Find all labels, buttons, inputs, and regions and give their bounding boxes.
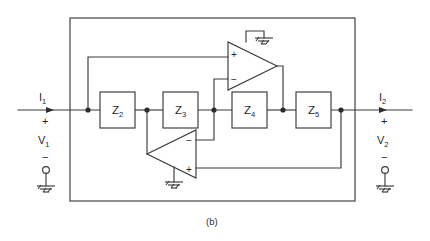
opamp-lower-minus-label: − [186, 135, 192, 146]
current-arrow-icon-i1 [46, 107, 54, 113]
junction-dot-icon-z4-z5 [280, 107, 285, 112]
voltage-label-v1: V1 [38, 134, 50, 149]
opamp-upper-plus-label: + [231, 49, 237, 60]
figure-root: Z2 Z3 Z4 Z5 + − − + [0, 0, 430, 241]
current-label-i1: I1 [39, 91, 46, 106]
figure-caption: (b) [206, 216, 218, 227]
ground-icon-right-port [376, 185, 394, 192]
current-label-i2: I2 [379, 91, 386, 106]
junction-dot-icon-z3-z4 [211, 107, 216, 112]
polarity-plus-right: + [381, 115, 387, 127]
opamp-upper-minus-label: − [231, 74, 237, 85]
junction-dot-icon-output [338, 107, 343, 112]
junction-dot-icon-z2-z3 [144, 107, 149, 112]
junction-dot-icon-input [85, 107, 90, 112]
wire-opamp-upper-output [277, 66, 283, 110]
polarity-plus-left: + [42, 115, 48, 127]
terminal-circle-icon-right [382, 167, 389, 174]
ground-icon-opamp-lower [165, 181, 183, 188]
terminal-circle-icon-left [43, 167, 50, 174]
ground-icon-left-port [37, 185, 55, 192]
opamp-lower-plus-label: + [186, 164, 192, 175]
wire-opamp-upper-minus-input [214, 79, 228, 110]
current-arrow-icon-i2 [379, 107, 387, 113]
circuit-diagram: Z2 Z3 Z4 Z5 + − − + [0, 0, 430, 241]
wire-opamp-upper-ground-stub [246, 31, 264, 42]
voltage-label-v2: V2 [377, 134, 389, 149]
wire-opamp-lower-minus-input [196, 110, 214, 140]
ground-icon-opamp-upper [255, 37, 273, 44]
polarity-minus-left: − [42, 151, 48, 163]
polarity-minus-right: − [381, 151, 387, 163]
